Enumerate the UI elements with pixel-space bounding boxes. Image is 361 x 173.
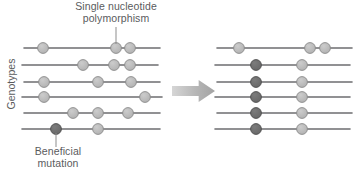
diagram-canvas: Single nucleotide polymorphism Beneficia… [0,0,361,173]
genotype-row [217,77,352,88]
beneficial-mutation-marker [251,92,262,103]
beneficial-mutation-marker [251,60,262,71]
snp-marker [297,77,308,88]
genotype-row [24,108,160,119]
snp-marker [320,43,331,54]
panel-after [215,43,352,135]
beneficial-mutation-marker [251,124,262,135]
genotype-row [217,108,352,119]
panel-before [22,43,162,135]
genotype-row [215,60,350,71]
genotype-row [24,43,160,54]
snp-marker [39,77,50,88]
beneficial-mutation-marker [51,124,62,135]
snp-marker [93,108,104,119]
snp-marker [39,92,50,103]
snp-marker [93,77,104,88]
snp-marker [297,124,308,135]
genotype-row [215,92,350,103]
genotype-row [22,92,162,103]
genotype-row [22,60,158,71]
genotype-row [22,124,160,135]
snp-marker [140,92,151,103]
snp-marker [68,108,79,119]
genotype-row [215,124,350,135]
snp-marker [123,108,134,119]
snp-marker [125,43,136,54]
snp-marker [38,43,49,54]
genotype-lines-graphic [0,0,361,173]
snp-marker [126,77,137,88]
beneficial-mutation-marker [251,77,262,88]
arrow-shape [172,80,215,102]
snp-marker [125,60,136,71]
beneficial-mutation-marker [251,108,262,119]
snp-marker [297,108,308,119]
genotype-row [24,77,160,88]
snp-marker [297,92,308,103]
process-arrow-icon [172,80,215,102]
snp-marker [234,43,245,54]
snp-marker [111,43,122,54]
snp-marker [93,124,104,135]
snp-marker [297,60,308,71]
snp-marker [78,60,89,71]
snp-marker [305,43,316,54]
genotype-row [217,43,352,54]
snp-marker [109,60,120,71]
